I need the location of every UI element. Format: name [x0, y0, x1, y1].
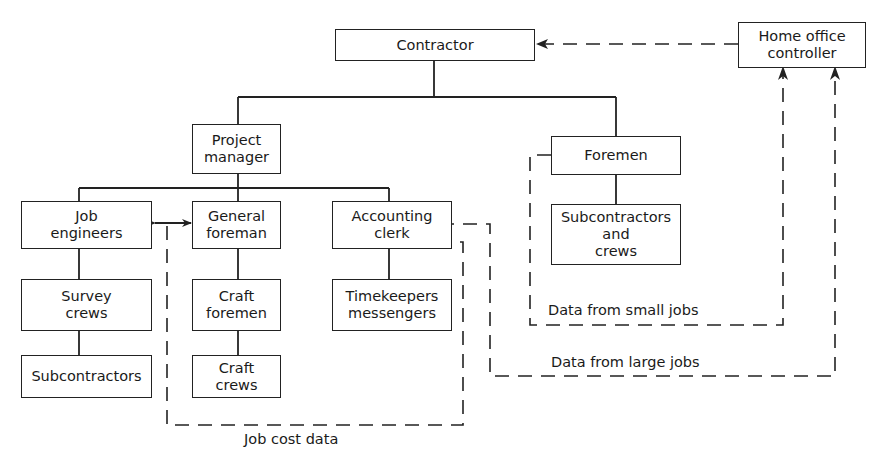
node-job-engineers: Job engineers	[21, 201, 152, 249]
label-data-from-large-jobs: Data from large jobs	[551, 354, 700, 370]
node-craft-crews: Craft crews	[192, 355, 281, 398]
node-survey-crews: Survey crews	[21, 279, 152, 331]
node-craft-foremen: Craft foremen	[192, 279, 281, 331]
label-job-cost-data: Job cost data	[244, 431, 338, 447]
node-timekeepers-messengers: Timekeepers messengers	[332, 279, 452, 331]
label-data-from-small-jobs: Data from small jobs	[548, 302, 698, 318]
node-foremen: Foremen	[551, 136, 681, 175]
node-accounting-clerk: Accounting clerk	[332, 201, 452, 249]
node-subcontractors-and-crews: Subcontractors and crews	[551, 204, 681, 265]
node-home-office-controller: Home office controller	[738, 22, 866, 68]
node-project-manager: Project manager	[192, 124, 281, 174]
node-contractor: Contractor	[335, 29, 535, 61]
node-general-foreman: General foreman	[192, 201, 281, 249]
node-subcontractors: Subcontractors	[21, 355, 152, 398]
